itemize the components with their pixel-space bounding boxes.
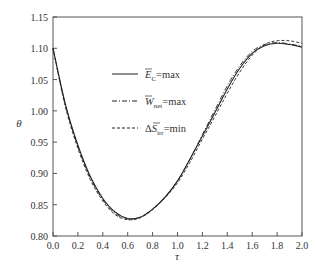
x-tick-label: 0.4: [97, 240, 110, 251]
x-tick-label: 1.2: [196, 240, 209, 251]
legend-label: ΔSirr=min: [145, 123, 187, 137]
x-tick-label: 2.0: [296, 240, 309, 251]
x-axis: 0.00.20.40.60.81.01.21.41.61.82.0: [47, 232, 309, 251]
x-tick-label: 0.2: [72, 240, 85, 251]
y-tick-label: 0.95: [31, 137, 49, 148]
y-tick-label: 1.05: [31, 75, 49, 86]
y-tick-label: 0.85: [31, 200, 49, 211]
x-tick-label: 1.8: [271, 240, 284, 251]
x-tick-label: 1.4: [221, 240, 234, 251]
x-tick-label: 0.0: [47, 240, 60, 251]
legend-label: EC=max: [144, 69, 181, 83]
y-tick-label: 0.80: [31, 231, 49, 242]
x-tick-label: 0.6: [121, 240, 134, 251]
legend: EC=maxWnet=maxΔSirr=min: [112, 69, 187, 137]
y-tick-label: 0.90: [31, 168, 49, 179]
legend-label: Wnet=max: [145, 96, 187, 110]
x-axis-label: τ: [175, 250, 180, 262]
line-chart: 0.800.850.900.951.001.051.101.15 0.00.20…: [0, 0, 317, 269]
x-tick-label: 1.6: [246, 240, 259, 251]
y-tick-label: 1.10: [31, 43, 49, 54]
y-tick-label: 1.15: [31, 12, 49, 23]
y-tick-label: 1.00: [31, 106, 49, 117]
x-tick-label: 0.8: [146, 240, 159, 251]
y-axis-label: θ: [16, 117, 22, 129]
